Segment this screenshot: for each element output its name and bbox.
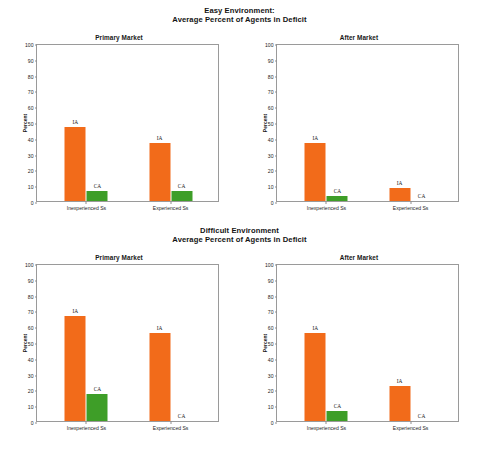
x-tick-mark	[410, 421, 411, 424]
bar-fill	[327, 411, 348, 421]
panel-easy-after-market: After MarketPercent010203040506070809010…	[248, 34, 470, 220]
x-tick-mark	[170, 421, 171, 424]
y-tick-mark	[275, 312, 278, 313]
x-tick-mark	[410, 201, 411, 204]
bar-ia-experienced-ss: IA	[389, 263, 410, 421]
bar-fill	[389, 386, 410, 421]
bar-value-label: IA	[397, 180, 403, 186]
bar-value-label: IA	[157, 325, 163, 331]
bar-fill	[65, 127, 86, 201]
bar-fill	[305, 143, 326, 201]
y-tick-mark	[35, 312, 38, 313]
panel-difficult-primary-market: Primary MarketPercent0102030405060708090…	[8, 254, 230, 440]
bar-ca-experienced-ss: CA	[411, 43, 432, 201]
y-tick-mark	[275, 391, 278, 392]
panel-title: Primary Market	[8, 34, 230, 41]
x-tick-label: Inexperienced Ss	[67, 425, 106, 431]
y-tick-mark	[35, 60, 38, 61]
y-tick-mark	[35, 328, 38, 329]
bar-ia-experienced-ss: IA	[149, 43, 170, 201]
bar-value-label: IA	[157, 135, 163, 141]
y-tick-mark	[275, 359, 278, 360]
y-tick-mark	[35, 45, 38, 46]
x-tick-label: Experienced Ss	[153, 205, 189, 211]
x-tick-mark	[170, 201, 171, 204]
y-tick-mark	[35, 92, 38, 93]
bar-fill	[149, 143, 170, 201]
y-tick-mark	[35, 108, 38, 109]
bar-value-label: CA	[94, 386, 102, 392]
plot-area: Percent0102030405060708090100Inexperienc…	[36, 264, 219, 422]
y-tick-mark	[35, 155, 38, 156]
suptitle-easy: Easy Environment: Average Percent of Age…	[0, 6, 479, 25]
suptitle-easy-line2: Average Percent of Agents in Deficit	[0, 15, 479, 24]
y-tick-mark	[275, 45, 278, 46]
bar-ca-inexperienced-ss: CA	[327, 43, 348, 201]
y-tick-mark	[275, 187, 278, 188]
bar-fill	[327, 196, 348, 201]
y-tick-mark	[275, 76, 278, 77]
bar-value-label: IA	[397, 378, 403, 384]
y-tick-mark	[35, 375, 38, 376]
bar-value-label: IA	[313, 325, 319, 331]
y-tick-mark	[275, 60, 278, 61]
bar-ca-experienced-ss: CA	[411, 263, 432, 421]
bar-fill	[389, 188, 410, 201]
suptitle-easy-line1: Easy Environment:	[0, 6, 479, 15]
y-tick-mark	[35, 187, 38, 188]
x-tick-label: Experienced Ss	[153, 425, 189, 431]
x-tick-label: Inexperienced Ss	[67, 205, 106, 211]
bar-value-label: CA	[178, 183, 186, 189]
bar-value-label: IA	[73, 308, 79, 314]
y-tick-mark	[275, 203, 278, 204]
y-tick-mark	[275, 296, 278, 297]
y-tick-mark	[275, 124, 278, 125]
y-tick-mark	[35, 280, 38, 281]
y-tick-mark	[275, 92, 278, 93]
x-tick-label: Inexperienced Ss	[307, 205, 346, 211]
bar-value-label: CA	[418, 413, 426, 419]
y-tick-mark	[275, 407, 278, 408]
plot-area: Percent0102030405060708090100Inexperienc…	[36, 44, 219, 202]
bar-ia-experienced-ss: IA	[149, 263, 170, 421]
suptitle-difficult-line1: Difficult Environment	[0, 226, 479, 235]
bar-value-label: IA	[313, 135, 319, 141]
y-tick-mark	[35, 359, 38, 360]
y-tick-mark	[35, 344, 38, 345]
bar-value-label: CA	[334, 188, 342, 194]
bar-ia-inexperienced-ss: IA	[305, 43, 326, 201]
y-tick-mark	[275, 344, 278, 345]
bar-value-label: IA	[73, 119, 79, 125]
bar-value-label: CA	[418, 193, 426, 199]
y-tick-mark	[275, 375, 278, 376]
bar-fill	[171, 191, 192, 201]
y-tick-mark	[35, 171, 38, 172]
y-tick-mark	[35, 296, 38, 297]
bar-ia-inexperienced-ss: IA	[305, 263, 326, 421]
bar-fill	[305, 333, 326, 421]
y-tick-mark	[275, 139, 278, 140]
panel-title: After Market	[248, 254, 470, 261]
y-tick-mark	[275, 280, 278, 281]
y-tick-mark	[275, 423, 278, 424]
y-tick-mark	[275, 265, 278, 266]
y-tick-mark	[275, 155, 278, 156]
y-tick-mark	[35, 76, 38, 77]
bar-fill	[65, 316, 86, 421]
y-tick-mark	[35, 124, 38, 125]
bar-ca-experienced-ss: CA	[171, 43, 192, 201]
panel-title: After Market	[248, 34, 470, 41]
panel-difficult-after-market: After MarketPercent010203040506070809010…	[248, 254, 470, 440]
bar-ca-experienced-ss: CA	[171, 263, 192, 421]
y-tick-mark	[35, 203, 38, 204]
x-tick-mark	[86, 421, 87, 424]
plot-area: Percent0102030405060708090100Inexperienc…	[276, 44, 459, 202]
bar-value-label: CA	[334, 403, 342, 409]
bar-value-label: CA	[178, 413, 186, 419]
y-tick-mark	[35, 423, 38, 424]
x-tick-label: Experienced Ss	[393, 205, 429, 211]
y-tick-mark	[35, 139, 38, 140]
suptitle-difficult-line2: Average Percent of Agents in Deficit	[0, 235, 479, 244]
bar-fill	[87, 191, 108, 201]
suptitle-difficult: Difficult Environment Average Percent of…	[0, 226, 479, 245]
